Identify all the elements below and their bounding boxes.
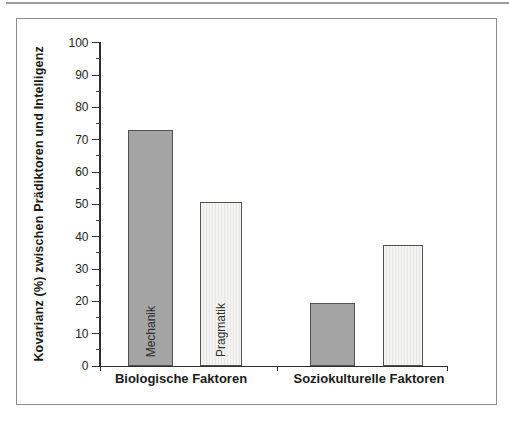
y-tick-major-60 xyxy=(92,172,100,173)
y-axis-title: Kovarianz (%) zwischen Prädiktoren und I… xyxy=(32,46,46,362)
scan-edge-line xyxy=(6,2,509,4)
y-tick-label-30: 30 xyxy=(49,262,89,276)
y-tick-label-90: 90 xyxy=(49,68,89,82)
y-tick-major-80 xyxy=(92,107,100,108)
y-tick-label-80: 80 xyxy=(49,100,89,114)
y-tick-major-50 xyxy=(92,204,100,205)
y-tick-minor-65 xyxy=(96,155,101,156)
bar-inner-label-mechanik: Mechanik xyxy=(144,306,158,357)
x-category-label-biologische-faktoren: Biologische Faktoren xyxy=(91,371,271,386)
y-tick-major-40 xyxy=(92,236,100,237)
bar-mechanik-soziokulturell xyxy=(310,303,355,366)
y-tick-minor-75 xyxy=(96,123,101,124)
y-tick-minor-5 xyxy=(96,349,101,350)
x-category-label-soziokulturelle-faktoren: Soziokulturelle Faktoren xyxy=(279,371,459,386)
x-tick-1 xyxy=(277,367,278,371)
y-tick-label-40: 40 xyxy=(49,230,89,244)
y-tick-label-10: 10 xyxy=(49,327,89,341)
y-tick-label-0: 0 xyxy=(49,359,89,373)
y-tick-label-100: 100 xyxy=(49,36,89,50)
y-tick-minor-85 xyxy=(96,91,101,92)
bar-pragmatik-soziokulturell xyxy=(383,245,423,366)
y-tick-major-20 xyxy=(92,301,100,302)
bar-inner-label-pragmatik: Pragmatik xyxy=(214,303,228,357)
y-tick-minor-55 xyxy=(96,188,101,189)
y-tick-major-10 xyxy=(92,333,100,334)
y-tick-major-30 xyxy=(92,269,100,270)
y-tick-minor-35 xyxy=(96,252,101,253)
bar-pragmatik-biologisch: Pragmatik xyxy=(200,202,242,367)
y-tick-label-70: 70 xyxy=(49,133,89,147)
y-tick-minor-25 xyxy=(96,285,101,286)
y-tick-major-100 xyxy=(92,42,100,43)
y-tick-label-50: 50 xyxy=(49,197,89,211)
y-tick-label-20: 20 xyxy=(49,294,89,308)
y-tick-minor-15 xyxy=(96,317,101,318)
y-tick-label-60: 60 xyxy=(49,165,89,179)
y-tick-major-70 xyxy=(92,139,100,140)
y-tick-minor-45 xyxy=(96,220,101,221)
y-tick-major-90 xyxy=(92,75,100,76)
bar-mechanik-biologisch: Mechanik xyxy=(128,130,173,366)
y-tick-minor-95 xyxy=(96,58,101,59)
scanned-bar-chart-figure: Kovarianz (%) zwischen Prädiktoren und I… xyxy=(0,0,509,423)
